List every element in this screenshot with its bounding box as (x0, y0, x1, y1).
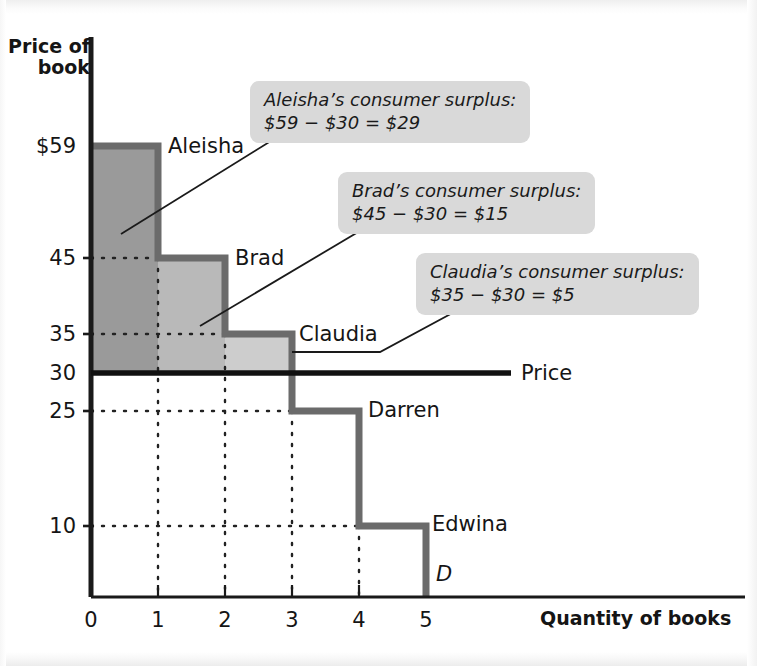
y-axis-title: Price of book (6, 36, 90, 78)
step-label-edwina: Edwina (432, 512, 508, 536)
claudia-callout-line1: Claudia’s consumer surplus: (430, 261, 685, 282)
y-axis-title-line1: Price of (8, 35, 90, 57)
x-tick-label-2: 2 (205, 608, 245, 632)
y-tick-label-59: $59 (0, 134, 76, 158)
demand-curve-label: D (436, 562, 452, 586)
claudia-surplus-area (225, 334, 292, 373)
x-tick-label-5: 5 (406, 608, 446, 632)
step-label-darren: Darren (368, 398, 440, 422)
x-tick-label-3: 3 (272, 608, 312, 632)
y-tick-label-30: 30 (0, 361, 76, 385)
claudia-callout-line2: $35 − $30 = $5 (430, 283, 685, 306)
y-tick-label-45: 45 (0, 246, 76, 270)
price-line-label: Price (521, 361, 572, 385)
brad-surplus-area (158, 258, 225, 373)
step-label-aleisha: Aleisha (168, 134, 244, 158)
aleisha-callout: Aleisha’s consumer surplus: $59 − $30 = … (250, 81, 530, 143)
x-tick-label-0: 0 (71, 608, 111, 632)
step-label-brad: Brad (235, 246, 284, 270)
brad-callout-line1: Brad’s consumer surplus: (352, 180, 581, 201)
claudia-callout: Claudia’s consumer surplus: $35 − $30 = … (416, 253, 699, 315)
x-tick-label-4: 4 (339, 608, 379, 632)
x-axis-ticks (158, 585, 359, 597)
y-tick-label-35: 35 (0, 322, 76, 346)
y-axis-title-line2: book (38, 56, 90, 78)
aleisha-surplus-area (93, 146, 158, 373)
brad-callout-line2: $45 − $30 = $15 (352, 202, 581, 225)
aleisha-callout-line2: $59 − $30 = $29 (264, 111, 516, 134)
consumer-surplus-figure: Price of book $59 45 35 30 25 10 0 1 2 3… (0, 0, 757, 666)
x-axis-title: Quantity of books (540, 608, 731, 629)
y-tick-label-10: 10 (0, 514, 76, 538)
brad-callout: Brad’s consumer surplus: $45 − $30 = $15 (338, 172, 595, 234)
step-label-claudia: Claudia (299, 322, 378, 346)
y-tick-label-25: 25 (0, 399, 76, 423)
aleisha-callout-line1: Aleisha’s consumer surplus: (264, 89, 516, 110)
x-tick-label-1: 1 (138, 608, 178, 632)
